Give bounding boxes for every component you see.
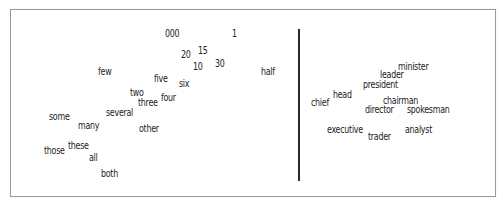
word-label-15: 15 [198,45,208,56]
word-label-other: other [139,123,159,134]
word-label-four: four [161,92,176,103]
word-label-analyst: analyst [405,124,432,135]
word-label-trader: trader [368,131,391,142]
word-label-director: director [365,104,394,115]
word-label-three: three [138,97,158,108]
word-label-many: many [78,120,99,131]
word-label-executive: executive [327,124,363,135]
word-label-1: 1 [232,28,237,39]
word-label-000: 000 [165,28,179,39]
word-label-president: president [363,79,398,90]
word-label-six: six [179,78,189,89]
word-label-half: half [261,66,275,77]
word-label-head: head [333,89,352,100]
word-label-these: these [68,140,89,151]
cluster-divider-line [298,29,300,181]
word-label-several: several [106,107,133,118]
word-label-five: five [154,73,167,84]
word-label-few: few [98,66,111,77]
word-label-10: 10 [193,61,203,72]
word-label-those: those [44,145,65,156]
chart-frame [10,9,496,197]
word-label-30: 30 [215,58,225,69]
word-label-chief: chief [311,97,329,108]
word-label-both: both [101,168,118,179]
word-label-some: some [49,111,70,122]
word-label-all: all [89,152,97,163]
word-label-20: 20 [181,49,191,60]
word-label-spokesman: spokesman [407,104,449,115]
